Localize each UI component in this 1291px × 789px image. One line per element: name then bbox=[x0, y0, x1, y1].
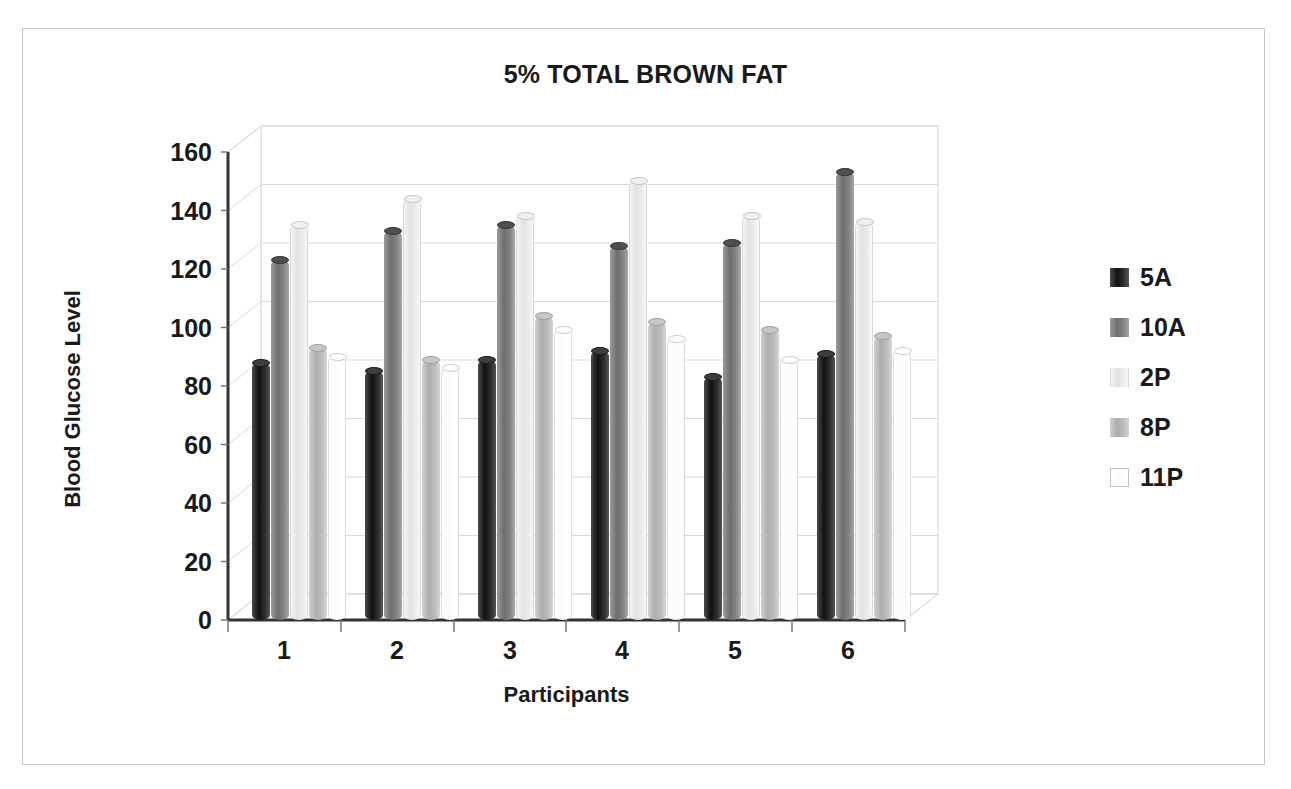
legend-swatch-icon-10a bbox=[1110, 318, 1129, 337]
bar-8P-1 bbox=[309, 348, 327, 620]
legend-swatch-icon-2p bbox=[1110, 368, 1129, 387]
bar-11P-5 bbox=[780, 360, 798, 620]
legend-item-8p[interactable]: 8P bbox=[1110, 402, 1186, 452]
bar-cap-icon bbox=[442, 364, 460, 372]
bar-cap-icon bbox=[535, 312, 553, 320]
bar-cap-icon bbox=[668, 335, 686, 343]
bar-cap-icon bbox=[329, 353, 347, 361]
x-tick-3: 3 bbox=[475, 636, 545, 665]
bar-2P-6 bbox=[855, 222, 873, 620]
legend-item-10a[interactable]: 10A bbox=[1110, 302, 1186, 352]
bar-10A-1 bbox=[271, 260, 289, 620]
bar-2P-4 bbox=[629, 181, 647, 620]
legend-item-2p[interactable]: 2P bbox=[1110, 352, 1186, 402]
bar-2P-3 bbox=[516, 216, 534, 620]
bar-10A-5 bbox=[723, 243, 741, 620]
bar-cap-icon bbox=[404, 195, 422, 203]
bar-8P-4 bbox=[648, 322, 666, 620]
bar-cap-icon bbox=[704, 373, 722, 381]
bar-11P-2 bbox=[441, 368, 459, 620]
legend-item-11p[interactable]: 11P bbox=[1110, 452, 1186, 502]
bar-5A-2 bbox=[365, 371, 383, 620]
bar-cap-icon bbox=[291, 221, 309, 229]
bar-10A-6 bbox=[836, 172, 854, 620]
bar-cap-icon bbox=[761, 326, 779, 334]
legend-label-11p: 11P bbox=[1140, 465, 1183, 490]
bar-cap-icon bbox=[555, 326, 573, 334]
legend-item-5a[interactable]: 5A bbox=[1110, 252, 1186, 302]
bar-2P-1 bbox=[290, 225, 308, 620]
bar-cap-icon bbox=[874, 332, 892, 340]
legend-swatch-icon-5a bbox=[1110, 268, 1129, 287]
bar-5A-4 bbox=[591, 351, 609, 620]
bar-5A-3 bbox=[478, 360, 496, 620]
bar-cap-icon bbox=[723, 239, 741, 247]
bar-5A-1 bbox=[252, 363, 270, 620]
legend-label-5a: 5A bbox=[1140, 265, 1172, 290]
legend-label-8p: 8P bbox=[1140, 415, 1171, 440]
bar-cap-icon bbox=[384, 227, 402, 235]
bar-cap-icon bbox=[648, 318, 666, 326]
bar-10A-3 bbox=[497, 225, 515, 620]
x-tick-1: 1 bbox=[249, 636, 319, 665]
bar-11P-4 bbox=[667, 339, 685, 620]
x-tick-2: 2 bbox=[362, 636, 432, 665]
x-tick-5: 5 bbox=[700, 636, 770, 665]
bar-11P-1 bbox=[328, 357, 346, 620]
x-tick-4: 4 bbox=[587, 636, 657, 665]
bar-cap-icon bbox=[422, 356, 440, 364]
bar-8P-2 bbox=[422, 360, 440, 620]
bar-cap-icon bbox=[271, 256, 289, 264]
legend-label-2p: 2P bbox=[1140, 365, 1171, 390]
bar-cap-icon bbox=[743, 212, 761, 220]
bar-5A-5 bbox=[704, 377, 722, 620]
bar-cap-icon bbox=[856, 218, 874, 226]
bar-cap-icon bbox=[630, 177, 648, 185]
legend-label-10a: 10A bbox=[1140, 315, 1186, 340]
bar-cap-icon bbox=[817, 350, 835, 358]
bar-cap-icon bbox=[497, 221, 515, 229]
bar-cap-icon bbox=[894, 347, 912, 355]
bar-cap-icon bbox=[781, 356, 799, 364]
bar-cap-icon bbox=[591, 347, 609, 355]
bar-series-container bbox=[0, 0, 1291, 789]
bar-11P-6 bbox=[893, 351, 911, 620]
bar-5A-6 bbox=[817, 354, 835, 620]
chart-legend: 5A 10A 2P 8P 11P bbox=[1110, 252, 1186, 502]
bar-10A-4 bbox=[610, 246, 628, 620]
bar-cap-icon bbox=[365, 367, 383, 375]
bar-cap-icon bbox=[309, 344, 327, 352]
bar-8P-6 bbox=[874, 336, 892, 620]
bar-cap-icon bbox=[252, 359, 270, 367]
bar-cap-icon bbox=[610, 242, 628, 250]
bar-10A-2 bbox=[384, 231, 402, 620]
bar-cap-icon bbox=[517, 212, 535, 220]
bar-2P-2 bbox=[403, 199, 421, 620]
bar-8P-5 bbox=[761, 330, 779, 620]
bar-8P-3 bbox=[535, 316, 553, 620]
x-axis-title: Participants bbox=[228, 682, 905, 708]
legend-swatch-icon-11p bbox=[1110, 468, 1129, 487]
legend-swatch-icon-8p bbox=[1110, 418, 1129, 437]
bar-cap-icon bbox=[836, 168, 854, 176]
bar-2P-5 bbox=[742, 216, 760, 620]
chart-page: 5% TOTAL BROWN FAT bbox=[0, 0, 1291, 789]
bar-11P-3 bbox=[554, 330, 572, 620]
x-tick-6: 6 bbox=[813, 636, 883, 665]
bar-cap-icon bbox=[478, 356, 496, 364]
